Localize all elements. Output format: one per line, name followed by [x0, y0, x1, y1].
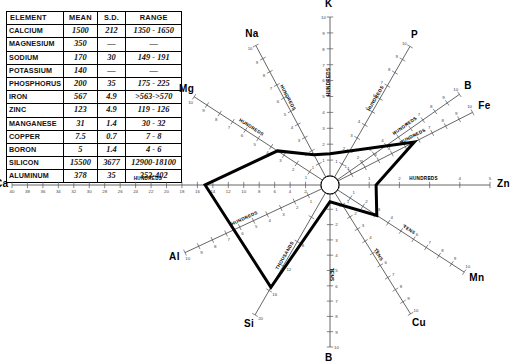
axis-tick-label: 5: [335, 268, 338, 273]
axis-tick: [316, 162, 322, 165]
axis-tick: [244, 127, 247, 132]
axis-label-Mn: Mn: [469, 272, 484, 283]
axis-tick-label: 8: [441, 118, 444, 123]
axis-tick-label: 9: [200, 250, 203, 255]
axis-tick-label: 7: [228, 125, 231, 130]
axis-tick: [433, 109, 437, 114]
axis-label-Na: Na: [245, 28, 258, 39]
axis-tick-label: 9: [335, 330, 338, 335]
axis-label-Ca: Ca: [0, 178, 8, 189]
axis-tick: [444, 123, 447, 129]
axis-tick-label: 8: [400, 284, 403, 289]
axis-tick: [363, 164, 366, 170]
axis-tick: [421, 117, 425, 122]
axis-tick: [377, 157, 380, 163]
data-trace-polygon: [205, 142, 414, 287]
axis-tick-label: 9: [322, 31, 325, 36]
axis-tick-label: 4: [381, 138, 384, 143]
axis-tick-label: 1: [312, 165, 315, 170]
axis-tick: [362, 123, 368, 126]
axis-tick: [450, 261, 453, 266]
axis-tick-label: 4: [391, 215, 394, 220]
axis-tick-label: 9: [454, 256, 457, 261]
axis-tick-label: 5: [255, 224, 258, 229]
axis-tick: [390, 151, 393, 157]
axis-tick-label: 2: [398, 176, 401, 181]
axis-tick-label: 10: [188, 100, 193, 105]
axis-tick: [378, 264, 383, 267]
axis-tick-label: 38: [25, 189, 30, 194]
axis-tick: [471, 110, 474, 116]
axis-tick-label: 7: [335, 299, 338, 304]
axis-tick-label: 7: [228, 237, 231, 242]
axis-tick-label: 6: [241, 231, 244, 236]
axis-tick-label: 1: [368, 176, 371, 181]
axis-tick-label: 3: [350, 133, 353, 138]
axis-tick-label: 10: [321, 15, 326, 20]
axis-tick-label: 6: [385, 260, 388, 265]
axis-tick-label: 6: [416, 232, 419, 237]
axis-tick-label: 10: [185, 256, 190, 261]
axis-tick-label: 1: [335, 159, 338, 164]
axis-unit-label-Cu: TENS: [373, 248, 384, 262]
axis-tick-label: 9: [407, 296, 410, 301]
axis-tick-label: 30: [87, 189, 92, 194]
axis-tick-label: 7: [429, 240, 432, 245]
axis-unit-label-Ca: HUNDREDS: [134, 176, 162, 181]
axis-tick-label: 36: [40, 189, 45, 194]
axis-tick-label: 3: [322, 126, 325, 131]
axis-tick-label: 24: [133, 189, 138, 194]
axis-tick-label: 1: [335, 207, 338, 212]
axis-tick-label: 32: [71, 189, 76, 194]
axis-tick: [253, 44, 259, 47]
axis-tick-label: 10: [334, 345, 339, 350]
axis-tick: [386, 220, 389, 225]
axis-tick-label: 8: [335, 314, 338, 319]
axis-tick-label: 2: [354, 211, 357, 216]
axis-tick: [385, 84, 391, 87]
axis-tick-label: 4: [335, 253, 338, 258]
axis-tick-label: 5: [254, 142, 257, 147]
axis-tick-label: 6: [335, 284, 338, 289]
axis-tick: [393, 288, 398, 291]
axis-tick-label: 9: [455, 111, 458, 116]
axis-tick-label: 2: [322, 142, 325, 147]
axis-tick-label: 12: [226, 189, 231, 194]
axis-tick: [302, 136, 308, 139]
axis-label-Si: Si: [244, 318, 254, 329]
axis-tick: [424, 245, 427, 250]
axis-tick-label: 28: [102, 189, 107, 194]
axis-tick-label: 2: [292, 167, 295, 172]
axis-tick-label: 8: [258, 189, 261, 194]
axis-tick-label: 22: [149, 189, 154, 194]
axis-tick: [445, 100, 449, 105]
axis-tick-label: 3: [279, 158, 282, 163]
axis-tick: [437, 253, 440, 258]
axis-tick-label: 2: [343, 146, 346, 151]
axis-tick: [355, 227, 360, 230]
axis-tick: [269, 144, 272, 149]
axis-tick-label: 2: [304, 189, 307, 194]
axis-tick: [257, 136, 260, 141]
axis-tick: [400, 58, 406, 61]
axis-unit-label-B2: TENS: [329, 268, 334, 281]
axis-tick-label: 3: [362, 223, 365, 228]
axis-tick-label: 9: [396, 54, 399, 59]
axis-tick-label: 3: [298, 138, 301, 143]
axis-label-K: K: [325, 0, 333, 9]
axis-tick-label: 7: [392, 272, 395, 277]
axis-tick-label: 4: [269, 218, 272, 223]
axis-tick: [274, 83, 280, 86]
axis-tick-label: 4: [289, 189, 292, 194]
axis-tick: [462, 269, 465, 274]
axis-tick: [218, 111, 221, 116]
axis-label-Al: Al: [169, 251, 180, 262]
axis-tick-label: 10: [414, 308, 419, 313]
axis-tick: [347, 215, 352, 218]
axis-spine-Si: [255, 193, 326, 315]
axis-tick-label: 18: [180, 189, 185, 194]
axis-tick: [458, 116, 461, 122]
axis-tick-label: 1: [305, 175, 308, 180]
axis-label-B2: B: [325, 352, 333, 362]
